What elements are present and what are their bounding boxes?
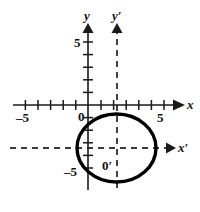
- x-axis-group: [13, 100, 185, 111]
- origin-prime-label: 0′: [102, 159, 112, 172]
- x-axis-label: x: [187, 98, 194, 111]
- y-axis-arrowhead: [83, 23, 94, 33]
- y-tick-label-pos5: 5: [74, 36, 81, 49]
- coordinate-plane-figure: y y′ x x′ –5 5 0 5 –5 0′: [0, 0, 200, 212]
- y-tick-label-neg5: –5: [64, 165, 77, 178]
- figure-canvas: [0, 0, 200, 212]
- x-tick-label-neg5: –5: [16, 111, 29, 124]
- origin-label: 0: [78, 110, 85, 123]
- x-tick-label-pos5: 5: [157, 111, 164, 124]
- x-prime-axis-label: x′: [178, 141, 188, 154]
- y-prime-arrowhead: [112, 23, 123, 33]
- y-prime-axis-label: y′: [112, 9, 121, 22]
- y-axis-label: y: [84, 9, 90, 22]
- x-prime-axis-group: [10, 143, 176, 154]
- x-axis-arrowhead: [173, 100, 185, 111]
- x-prime-arrowhead: [166, 143, 176, 154]
